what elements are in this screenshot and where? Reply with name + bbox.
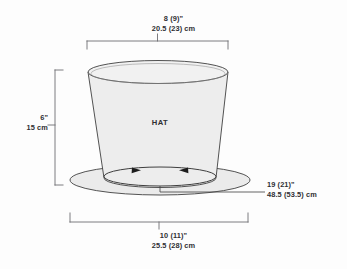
top-dimension-label: 8 (9)" 20.5 (23) cm (0, 14, 347, 33)
hat-body-label: HAT (128, 118, 192, 128)
top-dimension-bracket (87, 34, 228, 49)
right-dimension-metric: 48.5 (53.5) cm (267, 190, 317, 200)
hat-schematic-diagram: 8 (9)" 20.5 (23) cm 6" 15 cm 19 (21)" 48… (0, 0, 347, 269)
bottom-dimension-bracket (70, 213, 248, 229)
bottom-dimension-metric: 25.5 (28) cm (0, 241, 347, 251)
left-dimension-metric: 15 cm (6, 123, 48, 133)
bottom-dimension-label: 10 (11)" 25.5 (28) cm (0, 231, 347, 250)
hat-drawing (0, 0, 347, 269)
left-dimension-bracket (48, 70, 63, 185)
top-dimension-metric: 20.5 (23) cm (0, 24, 347, 34)
right-dimension-inches: 19 (21)" (267, 180, 317, 190)
hat-crown-body (88, 72, 228, 188)
right-dimension-label: 19 (21)" 48.5 (53.5) cm (267, 180, 317, 199)
left-dimension-label: 6" 15 cm (6, 113, 48, 132)
left-dimension-inches: 6" (6, 113, 48, 123)
bottom-dimension-inches: 10 (11)" (0, 231, 347, 241)
top-dimension-inches: 8 (9)" (0, 14, 347, 24)
hat-illustration (70, 61, 250, 196)
